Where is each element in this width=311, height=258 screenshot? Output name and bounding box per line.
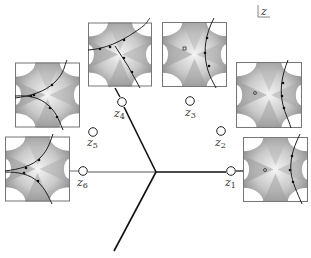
- panel-z2: [215, 48, 311, 143]
- branch-point-z5: [89, 128, 98, 137]
- riemann-surface-diagram: z1 z2 z3 z4 z5 z6 z: [0, 0, 311, 258]
- panel-z1: [223, 123, 311, 216]
- label-z6: z6: [76, 176, 88, 190]
- label-z5: z5: [86, 136, 98, 150]
- branch-point-z2: [217, 127, 226, 136]
- edge-upper-left: [124, 107, 156, 172]
- edge-z4-panel: [115, 88, 120, 97]
- diagram-canvas: z1 z2 z3 z4 z5 z6 z: [0, 0, 311, 258]
- panel-z4: [68, 9, 172, 101]
- branch-point-z1: [227, 167, 236, 176]
- panel-z5: [0, 48, 100, 141]
- branch-point-z4: [118, 98, 127, 107]
- plane-label: z: [260, 5, 267, 18]
- edge-lower-left: [114, 172, 156, 251]
- branch-edges: [70, 88, 243, 251]
- point-labels: z1 z2 z3 z4 z5 z6: [76, 106, 236, 190]
- label-z3: z3: [184, 106, 196, 120]
- label-z1: z1: [224, 176, 236, 190]
- label-z4: z4: [113, 107, 125, 121]
- branch-point-z3: [186, 97, 195, 106]
- plane-indicator: z: [258, 5, 270, 18]
- branch-point-z6: [79, 167, 88, 176]
- label-z2: z2: [214, 136, 226, 150]
- panel-z3: [142, 8, 248, 101]
- branch-points: [79, 97, 236, 176]
- panel-z6: [0, 122, 90, 215]
